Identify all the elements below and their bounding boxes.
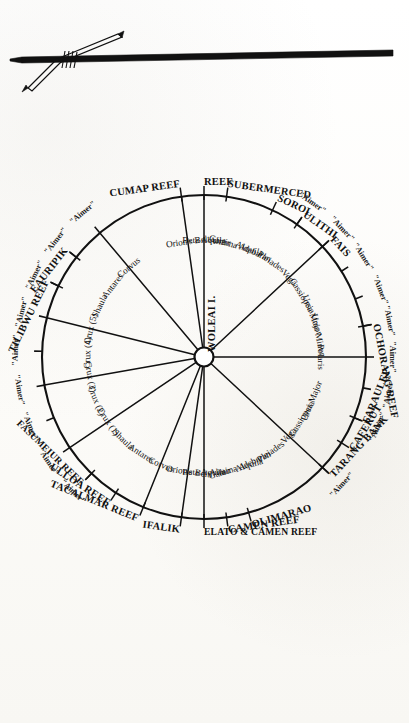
- destination-tick: [180, 188, 182, 202]
- aimer-tick: [355, 296, 363, 299]
- destination-tick: [140, 503, 145, 516]
- navigation-stick-icon: [10, 31, 393, 92]
- aimer-tick: [46, 418, 53, 421]
- aimer-label: "Aimer": [11, 335, 20, 367]
- star-compass-diagram: [0, 0, 409, 723]
- compass-ray: [182, 197, 203, 348]
- aimer-tick: [363, 388, 371, 390]
- aimer-tick: [63, 448, 70, 453]
- compass-ray: [143, 366, 200, 507]
- destination-label: ELATO & CAMEN REEF: [204, 527, 317, 537]
- compass-ray: [47, 318, 195, 355]
- compass-ray: [182, 366, 203, 517]
- aimer-tick: [39, 316, 47, 318]
- figure-page: FARAULEPCAFERUTTARANG BANKOLIMARAOCAMEN …: [0, 0, 409, 723]
- compass-ray: [45, 359, 195, 386]
- destination-tick: [226, 188, 228, 202]
- aimer-label: "Aimer": [388, 341, 396, 372]
- aimer-tick: [37, 385, 45, 386]
- center-island-label: WOLEAI I.: [207, 296, 218, 352]
- star-label: Polaris: [315, 344, 324, 370]
- aimer-tick: [341, 267, 348, 271]
- destination-tick: [270, 202, 276, 215]
- aimer-tick: [95, 227, 100, 233]
